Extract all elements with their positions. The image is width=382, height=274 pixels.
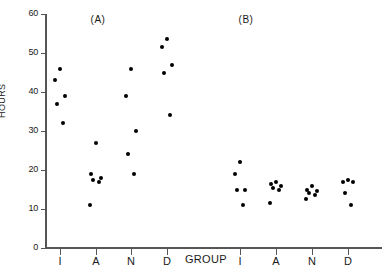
- data-point: [132, 172, 136, 176]
- data-point: [274, 180, 278, 184]
- x-axis-title: GROUP: [185, 253, 227, 265]
- y-axis-tick-label: 50: [29, 47, 38, 57]
- y-axis-tick: 0: [41, 248, 46, 249]
- data-point: [55, 102, 59, 106]
- data-point: [165, 37, 169, 41]
- data-point: [304, 197, 308, 201]
- y-axis-tick-label: 10: [29, 203, 38, 213]
- data-point: [134, 129, 138, 133]
- y-axis-tick-label: 0: [33, 242, 38, 252]
- y-axis-tick-label: 60: [29, 8, 38, 18]
- data-point: [233, 172, 237, 176]
- data-point: [343, 191, 347, 195]
- data-point: [162, 71, 166, 75]
- data-point: [88, 203, 92, 207]
- panel-label: (A): [91, 14, 106, 25]
- data-point: [58, 67, 62, 71]
- data-point: [268, 201, 272, 205]
- data-point: [346, 178, 350, 182]
- data-point: [63, 94, 67, 98]
- data-point: [279, 184, 283, 188]
- data-point: [241, 203, 245, 207]
- data-point: [53, 78, 57, 82]
- scatter-plot-figure: 6050403020100 IANDIAND HOURS GROUP (A)(B…: [0, 0, 382, 274]
- x-axis-tick-label: N: [127, 255, 135, 267]
- data-point: [277, 188, 281, 192]
- data-point: [168, 113, 172, 117]
- data-point: [349, 203, 353, 207]
- data-point: [310, 184, 314, 188]
- data-point: [61, 121, 65, 125]
- y-axis-tick: 30: [41, 131, 46, 132]
- y-axis-tick-label: 40: [29, 86, 38, 96]
- data-point: [126, 152, 130, 156]
- x-axis-tick-label: A: [92, 255, 99, 267]
- x-axis-tick-label: I: [58, 255, 61, 267]
- y-axis-title: HOURS: [0, 83, 7, 118]
- data-point: [351, 180, 355, 184]
- data-point: [341, 180, 345, 184]
- data-point: [94, 141, 98, 145]
- data-point: [89, 172, 93, 176]
- data-point: [170, 63, 174, 67]
- data-point: [307, 191, 311, 195]
- y-axis-tick: 60: [41, 14, 46, 15]
- data-point: [91, 178, 95, 182]
- y-axis-tick: 50: [41, 53, 46, 54]
- data-point: [160, 45, 164, 49]
- x-axis-tick-label: D: [163, 255, 171, 267]
- y-axis-tick: 40: [41, 92, 46, 93]
- x-axis-tick-label: I: [238, 255, 241, 267]
- y-axis-tick: 10: [41, 209, 46, 210]
- data-point: [97, 180, 101, 184]
- data-point: [271, 186, 275, 190]
- y-axis-tick-label: 30: [29, 125, 38, 135]
- x-axis-tick-label: D: [344, 255, 352, 267]
- y-axis-tick: 20: [41, 170, 46, 171]
- data-point: [313, 193, 317, 197]
- data-point: [235, 188, 239, 192]
- x-axis-tick-label: N: [308, 255, 316, 267]
- data-point: [238, 160, 242, 164]
- x-axis-tick-label: A: [272, 255, 279, 267]
- y-axis-tick-label: 20: [29, 164, 38, 174]
- data-point: [243, 188, 247, 192]
- panel-label: (B): [239, 14, 254, 25]
- data-point: [124, 94, 128, 98]
- data-point: [129, 67, 133, 71]
